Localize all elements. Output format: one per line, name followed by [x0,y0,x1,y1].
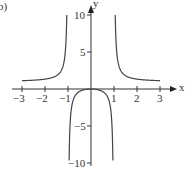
x-tick-label: 2 [134,93,140,104]
y-tick-label: 5 [80,47,86,58]
x-tick-label: −1 [59,93,71,104]
y-tick-label: 10 [74,10,85,21]
x-axis-label: x [179,82,185,93]
y-axis-label: y [93,0,99,9]
x-tick-label: −2 [36,93,48,104]
left-branch-curve [22,15,67,81]
x-tick-label: 3 [157,93,163,104]
x-tick-label: 1 [111,93,117,104]
right-branch-curve [115,15,160,81]
axes [12,5,177,166]
y-tick-label: −5 [74,121,86,132]
y-tick-label: −10 [68,158,85,169]
x-tick-label: −3 [13,93,25,104]
function-plot [0,0,185,169]
